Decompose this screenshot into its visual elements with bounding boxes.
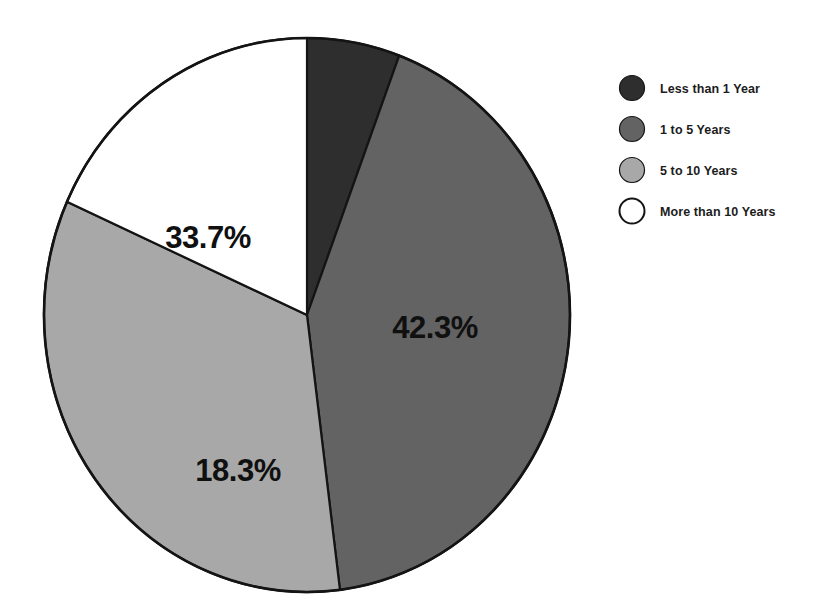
slice-label-5-to-10-years: 33.7%: [165, 220, 250, 255]
pie-chart-canvas: 42.3% 33.7% 18.3% Less than 1 Year1 to 5…: [0, 0, 817, 611]
pie-slices-group: [44, 38, 570, 592]
legend-item[interactable]: [616, 195, 791, 227]
legend-item[interactable]: [616, 154, 791, 186]
legend-item[interactable]: [616, 113, 791, 145]
slice-label-more-than-10-years: 18.3%: [195, 453, 280, 488]
legend-item[interactable]: [616, 72, 791, 104]
slice-label-1-to-5-years: 42.3%: [392, 310, 477, 345]
legend: Less than 1 Year1 to 5 Years5 to 10 Year…: [616, 72, 791, 227]
pie-chart-figure: 42.3% 33.7% 18.3% Less than 1 Year1 to 5…: [0, 0, 817, 611]
